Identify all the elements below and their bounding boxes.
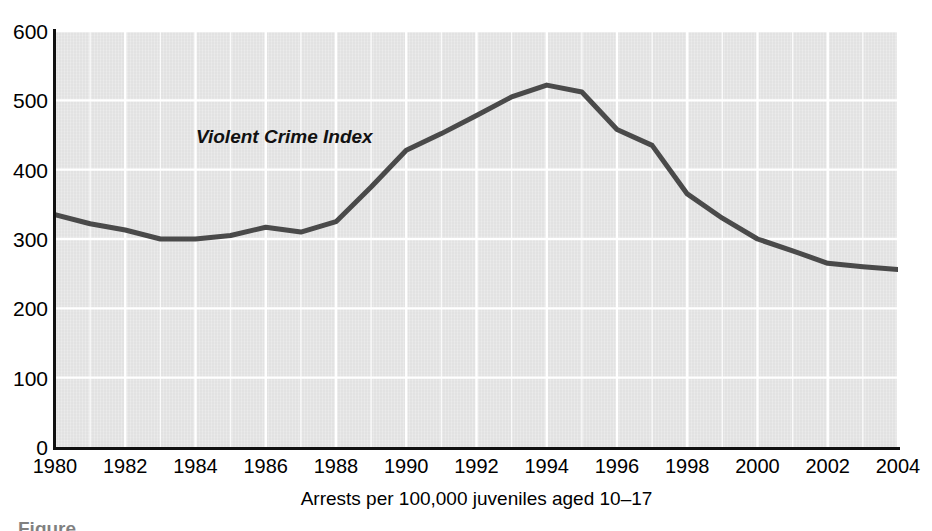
x-tick-label-1990: 1990 <box>366 456 446 476</box>
series-annotation-label: Violent Crime Index <box>196 127 373 146</box>
x-tick-label-2004: 2004 <box>858 456 932 476</box>
x-tick-label-1992: 1992 <box>437 456 517 476</box>
x-tick-label-1984: 1984 <box>156 456 236 476</box>
figure-caption-text: Figure <box>18 519 378 531</box>
y-tick-label-100: 100 <box>2 368 48 389</box>
y-tick-label-200: 200 <box>2 298 48 319</box>
figure-caption-clipped: Figure <box>18 519 378 531</box>
x-tick-label-1996: 1996 <box>577 456 657 476</box>
series-line-violent-crime-index <box>55 31 898 447</box>
x-tick-label-1988: 1988 <box>296 456 376 476</box>
x-axis-line <box>53 447 900 450</box>
x-tick-label-1980: 1980 <box>15 456 95 476</box>
y-tick-label-400: 400 <box>2 160 48 181</box>
x-tick-label-1986: 1986 <box>226 456 306 476</box>
y-axis-line <box>53 29 56 449</box>
x-axis-tick-labels: 1980198219841986198819901992199419961998… <box>0 456 932 484</box>
chart-figure: 0100200300400500600 19801982198419861988… <box>0 0 932 531</box>
x-axis-title: Arrests per 100,000 juveniles aged 10–17 <box>55 489 898 508</box>
y-tick-label-500: 500 <box>2 90 48 111</box>
y-axis-tick-labels: 0100200300400500600 <box>0 0 48 531</box>
x-tick-label-1982: 1982 <box>85 456 165 476</box>
y-tick-label-600: 600 <box>2 21 48 42</box>
y-tick-label-300: 300 <box>2 229 48 250</box>
x-tick-label-1994: 1994 <box>507 456 587 476</box>
x-tick-label-2002: 2002 <box>788 456 868 476</box>
x-tick-label-2000: 2000 <box>718 456 798 476</box>
plot-area <box>55 31 898 447</box>
x-tick-label-1998: 1998 <box>647 456 727 476</box>
